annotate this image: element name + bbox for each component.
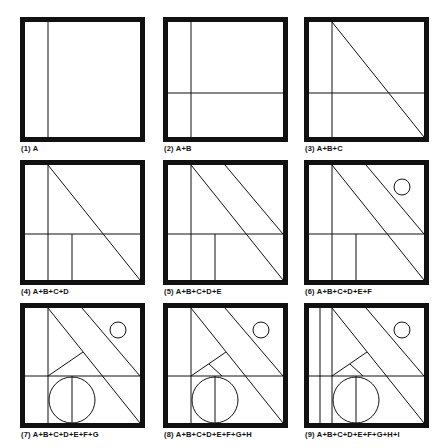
panel-3-drawing [304, 17, 429, 142]
panel-2-label: (2) A+B [164, 144, 192, 153]
line-e [366, 308, 424, 376]
line-c [332, 22, 424, 137]
panel-8-label: (8) A+B+C+D+E+F+G+H [164, 430, 252, 439]
panel-3: (3) A+B+C [304, 17, 429, 154]
circle-f [394, 322, 410, 338]
panel-1-label: (1) A [21, 144, 38, 153]
circle-f [253, 322, 269, 338]
panel-6-drawing [304, 160, 429, 285]
frame [166, 306, 286, 426]
line-e [225, 308, 283, 376]
frame [166, 20, 286, 140]
panel-6-label: (6) A+B+C+D+E+F [305, 287, 372, 296]
panel-6: (6) A+B+C+D+E+F [304, 160, 429, 297]
line-h [350, 364, 363, 376]
panel-9: (9) A+B+C+D+E+F+G+H+I [304, 303, 429, 440]
panel-5: (5) A+B+C+D+E [163, 160, 288, 297]
panel-5-drawing [163, 160, 288, 285]
circle-f [394, 179, 410, 195]
line-c [48, 165, 140, 280]
panel-1-drawing [20, 17, 145, 142]
panel-9-label: (9) A+B+C+D+E+F+G+H+I [305, 430, 400, 439]
line-c [332, 165, 424, 280]
line-h [209, 364, 222, 376]
panel-7: (7) A+B+C+D+E+F+G [20, 303, 145, 440]
panel-7-label: (7) A+B+C+D+E+F+G [21, 430, 99, 439]
frame [307, 163, 427, 283]
line-g [48, 352, 83, 376]
panel-9-drawing [304, 303, 429, 428]
frame [166, 163, 286, 283]
panel-4-label: (4) A+B+C+D [21, 287, 69, 296]
line-e [82, 308, 140, 376]
line-g [332, 352, 367, 376]
panel-4-drawing [20, 160, 145, 285]
frame [23, 163, 143, 283]
panel-2-drawing [163, 17, 288, 142]
circle-f [110, 322, 126, 338]
panel-3-label: (3) A+B+C [305, 144, 343, 153]
panel-1: (1) A [20, 17, 145, 154]
line-c [191, 165, 283, 280]
frame [23, 20, 143, 140]
panel-8-drawing [163, 303, 288, 428]
panel-2: (2) A+B [163, 17, 288, 154]
frame [307, 20, 427, 140]
panel-4: (4) A+B+C+D [20, 160, 145, 297]
frame [23, 306, 143, 426]
line-g [191, 352, 226, 376]
line-e [225, 165, 283, 234]
panel-7-drawing [20, 303, 145, 428]
frame [307, 306, 427, 426]
line-e [366, 165, 424, 234]
panel-8: (8) A+B+C+D+E+F+G+H [163, 303, 288, 440]
panel-5-label: (5) A+B+C+D+E [164, 287, 222, 296]
